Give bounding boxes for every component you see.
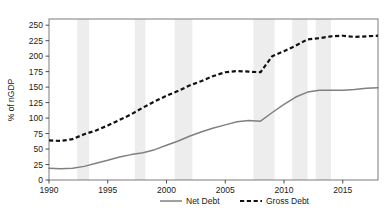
y-axis-tick-label: 75 bbox=[34, 129, 44, 139]
recession-band bbox=[253, 19, 274, 180]
y-axis-tick-label: 250 bbox=[29, 20, 43, 30]
y-axis-tick-label: 0 bbox=[38, 175, 43, 185]
y-axis-tick-label: 225 bbox=[29, 36, 43, 46]
chart-figure: 0255075100125150175200225250 19901995200… bbox=[0, 0, 392, 220]
legend-label-net-debt: Net Debt bbox=[186, 196, 220, 206]
y-axis-tick-label: 125 bbox=[29, 98, 43, 108]
x-axis-tick-label: 1990 bbox=[40, 185, 59, 195]
recession-band bbox=[77, 19, 89, 180]
x-axis-tick-label: 2010 bbox=[275, 185, 294, 195]
x-axis-tick-label: 2005 bbox=[216, 185, 235, 195]
y-axis-tick-label: 25 bbox=[34, 160, 44, 170]
legend-label-gross-debt: Gross Debt bbox=[266, 196, 310, 206]
y-axis-tick-label: 150 bbox=[29, 82, 43, 92]
recession-band bbox=[316, 19, 331, 180]
y-axis-tick-label: 175 bbox=[29, 67, 43, 77]
debt-line-chart: 0255075100125150175200225250 19901995200… bbox=[0, 0, 392, 220]
recession-band bbox=[135, 19, 146, 180]
y-axis-tick-label: 100 bbox=[29, 113, 43, 123]
recession-band bbox=[292, 19, 307, 180]
x-axis-tick-label: 2000 bbox=[157, 185, 176, 195]
x-axis-tick-label: 1995 bbox=[98, 185, 117, 195]
recession-band bbox=[175, 19, 193, 180]
y-axis-title: % of nGDP bbox=[6, 78, 16, 121]
y-axis-tick-label: 200 bbox=[29, 51, 43, 61]
x-axis-tick-label: 2015 bbox=[333, 185, 352, 195]
y-axis-tick-label: 50 bbox=[34, 144, 44, 154]
